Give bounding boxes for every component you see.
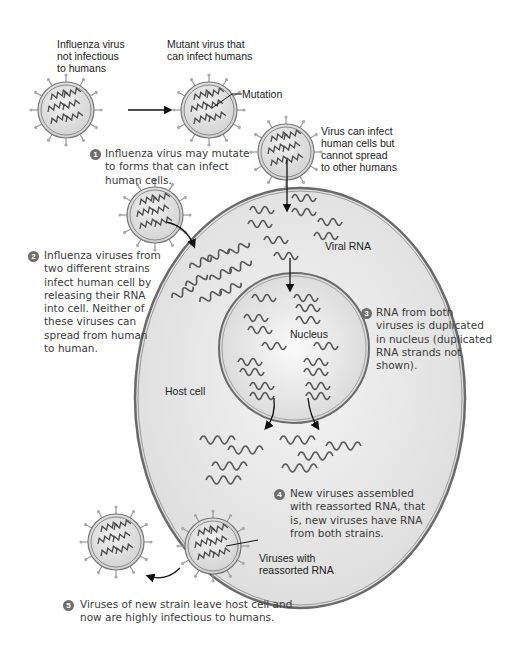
virus-mutant <box>172 73 245 146</box>
virus-original <box>29 73 102 146</box>
label-mutation: Mutation <box>242 88 282 100</box>
label-virus-not-infectious: Influenza virus not infectious to humans <box>57 38 125 74</box>
label-virus-cannot-spread: Virus can infect human cells but cannot … <box>321 125 397 173</box>
step-5-badge: 5 <box>63 600 74 611</box>
step-2-badge: 2 <box>28 251 39 262</box>
label-viral-rna: Viral RNA <box>325 240 371 252</box>
step-3-badge: 3 <box>361 308 372 319</box>
virus-entering-left <box>118 178 191 251</box>
label-nucleus: Nucleus <box>290 328 328 340</box>
virus-new-strain <box>79 505 152 578</box>
step-1-text: Influenza virus may mutate to forms that… <box>105 147 250 187</box>
step-4-text: New viruses assembled with reassorted RN… <box>290 487 425 540</box>
step-3-text: RNA from both viruses is duplicated in n… <box>376 306 492 372</box>
nucleus <box>219 273 369 423</box>
label-host-cell: Host cell <box>165 385 205 397</box>
label-mutant-virus: Mutant virus that can infect humans <box>167 38 252 62</box>
step-1-badge: 1 <box>90 149 101 160</box>
step-2-text: Influenza viruses from two different str… <box>44 249 161 355</box>
step-5-text: Viruses of new strain leave host cell an… <box>80 598 292 625</box>
step-4-badge: 4 <box>274 489 285 500</box>
label-reassorted-viruses: Viruses with reassorted RNA <box>259 552 334 576</box>
virus-entering-top <box>249 115 322 188</box>
